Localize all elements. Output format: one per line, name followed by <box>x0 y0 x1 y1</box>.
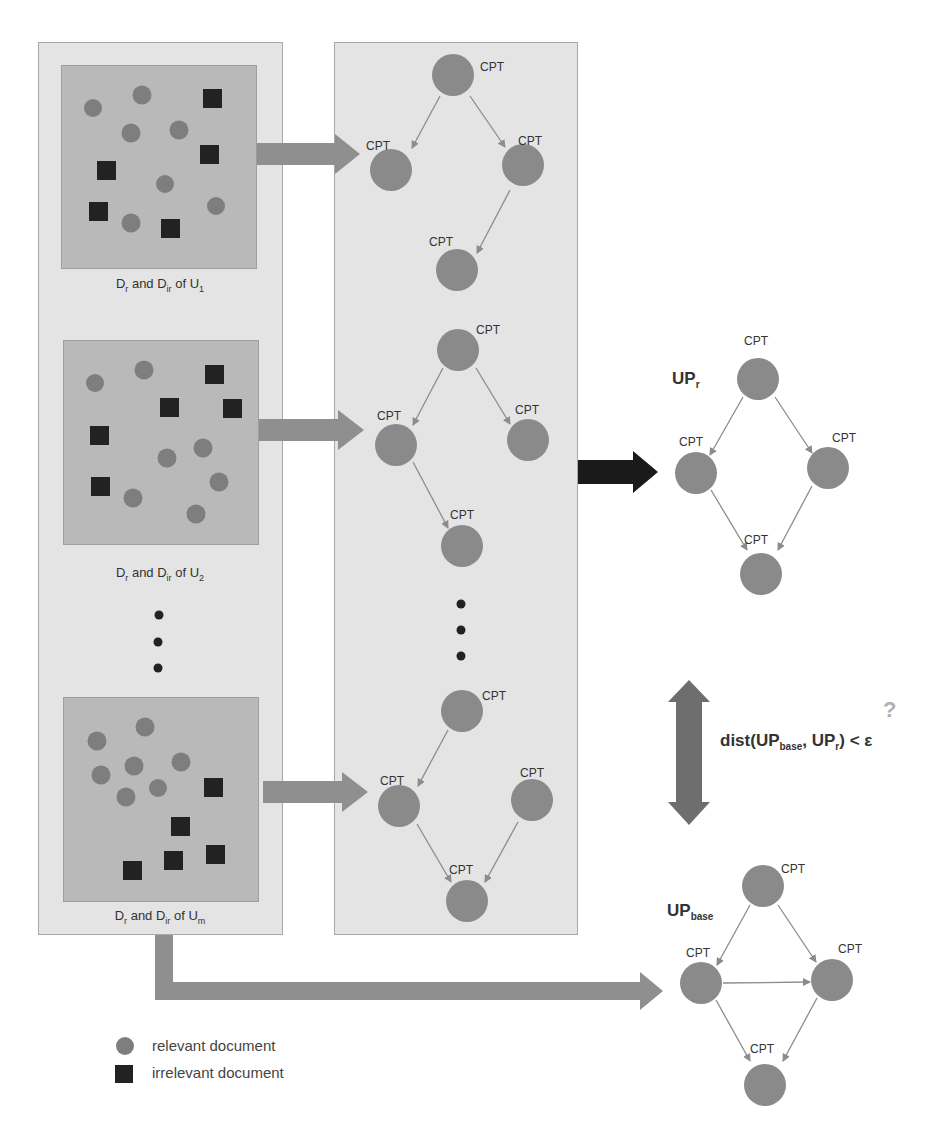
cpt-label: CPT <box>482 689 506 703</box>
cpt-label: CPT <box>429 235 453 249</box>
documents-user-m <box>88 718 226 881</box>
legend-relevant-label: relevant document <box>152 1037 275 1054</box>
cpt-label: CPT <box>515 403 539 417</box>
cpt-label: CPT <box>832 431 856 445</box>
diagram-canvas <box>0 0 948 1135</box>
up-base-title: UPbase <box>667 901 713 922</box>
network-user-m <box>378 690 553 922</box>
cpt-label: CPT <box>377 409 401 423</box>
cpt-label: CPT <box>750 1042 774 1056</box>
arrow-user-2-to-network <box>259 410 364 450</box>
question-mark-icon: ? <box>883 697 896 723</box>
arrow-user-m-to-network <box>263 772 368 812</box>
up-r-title: UPr <box>672 369 700 390</box>
cpt-label: CPT <box>781 862 805 876</box>
cpt-label: CPT <box>679 435 703 449</box>
cpt-label: CPT <box>520 766 544 780</box>
comparison-double-arrow <box>668 680 710 825</box>
cpt-label: CPT <box>838 942 862 956</box>
ellipsis-networks <box>457 600 466 661</box>
legend-relevant-icon <box>116 1037 134 1055</box>
cpt-label: CPT <box>449 863 473 877</box>
cpt-label: CPT <box>686 946 710 960</box>
network-user-1 <box>370 54 544 291</box>
aggregate-arrow <box>578 451 658 493</box>
network-up-r <box>675 358 849 595</box>
arrow-user-1-to-network <box>257 134 360 174</box>
cpt-label: CPT <box>744 334 768 348</box>
documents-user-2 <box>86 361 242 524</box>
cpt-label: CPT <box>476 323 500 337</box>
arrow-to-up-base <box>155 935 663 1010</box>
documents-user-1 <box>84 86 225 239</box>
cpt-label: CPT <box>450 508 474 522</box>
cpt-label: CPT <box>480 60 504 74</box>
cpt-label: CPT <box>366 139 390 153</box>
ellipsis-users <box>154 611 164 673</box>
legend-irrelevant-label: irrelevant document <box>152 1064 284 1081</box>
cpt-label: CPT <box>518 134 542 148</box>
distance-formula: dist(UPbase, UPr) < ε <box>720 731 872 752</box>
cpt-label: CPT <box>380 774 404 788</box>
legend-irrelevant-icon <box>115 1065 133 1083</box>
network-user-2 <box>375 329 549 567</box>
cpt-label: CPT <box>744 533 768 547</box>
